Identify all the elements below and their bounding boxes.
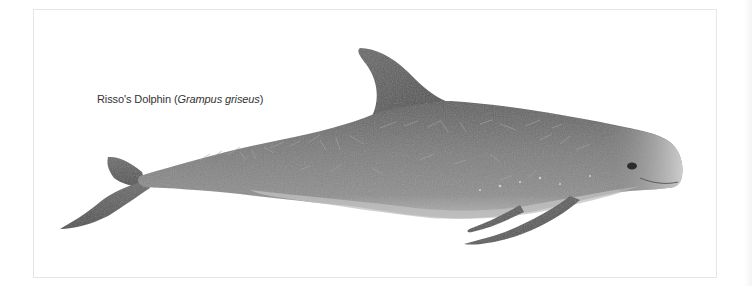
species-caption: Risso's Dolphin (Grampus griseus) — [97, 93, 263, 105]
dolphin-illustration — [0, 0, 752, 286]
scientific-name: Grampus griseus — [178, 93, 260, 105]
dolphin-body — [138, 101, 683, 218]
eye — [627, 163, 637, 170]
tail-fluke — [60, 157, 150, 229]
common-name: Risso's Dolphin — [97, 93, 171, 105]
close-paren: ) — [260, 93, 264, 105]
